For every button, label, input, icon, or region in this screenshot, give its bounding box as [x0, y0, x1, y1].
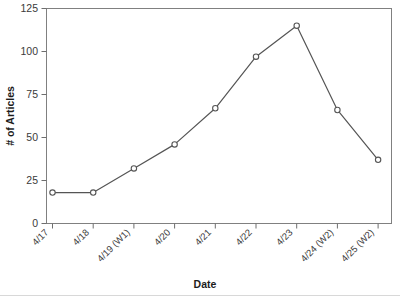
data-point: [131, 166, 136, 171]
series-markers: [50, 23, 381, 195]
x-tick-label: 4/19 (W1): [95, 227, 132, 264]
data-point: [50, 190, 55, 195]
x-tick-label: 4/18: [70, 227, 91, 248]
data-point: [253, 54, 258, 59]
x-tickmarks: [53, 224, 379, 229]
y-tick-label: 75: [26, 88, 38, 100]
y-axis-title: # of Articles: [4, 86, 16, 146]
y-tick-label: 25: [26, 174, 38, 186]
x-tick-label: 4/22: [233, 227, 254, 248]
x-tick-label: 4/25 (W2): [339, 227, 376, 264]
x-tick-label: 4/17: [30, 227, 51, 248]
plot-frame: [47, 9, 392, 224]
y-tickmarks: [42, 9, 47, 224]
data-point: [335, 107, 340, 112]
y-tick-labels: 125 100 75 50 25 0: [20, 2, 38, 229]
data-point: [294, 23, 299, 28]
y-tick-label: 125: [20, 2, 38, 14]
x-tick-label: 4/21: [192, 227, 213, 248]
data-point: [375, 157, 380, 162]
chart-container: 125 100 75 50 25 0 # of Articles 4/17 4/…: [0, 0, 400, 298]
data-point: [172, 142, 177, 147]
data-point: [213, 106, 218, 111]
x-tick-label: 4/24 (W2): [298, 227, 335, 264]
y-tick-label: 100: [20, 45, 38, 57]
x-axis-title: Date: [194, 278, 217, 290]
data-point: [91, 190, 96, 195]
x-tick-label: 4/23: [274, 227, 295, 248]
x-tick-label: 4/20: [152, 227, 173, 248]
y-tick-label: 50: [26, 131, 38, 143]
y-tick-label: 0: [32, 217, 38, 229]
x-tick-labels: 4/17 4/18 4/19 (W1) 4/20 4/21 4/22 4/23 …: [30, 227, 376, 264]
line-chart: 125 100 75 50 25 0 # of Articles 4/17 4/…: [0, 0, 400, 298]
